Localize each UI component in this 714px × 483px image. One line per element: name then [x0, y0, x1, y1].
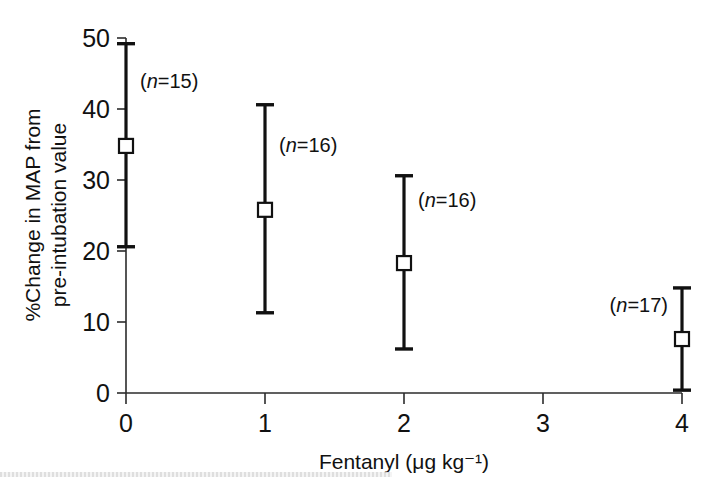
data-marker-3: [675, 332, 689, 346]
y-tick-label-0: 0: [96, 379, 110, 407]
x-axis-title: Fentanyl (μg kg⁻¹): [319, 450, 489, 473]
data-point-group-1: [256, 105, 274, 313]
y-axis-title-line1: %Change in MAP from: [21, 108, 44, 321]
chart-svg: 0 10 20 30 40 50 0 1 2 3 4 Fentanyl (μg …: [0, 0, 714, 483]
x-tick-label-4: 4: [675, 409, 689, 437]
sample-size-label-0: (n=15): [140, 70, 198, 92]
x-axis-title-text: Fentanyl (μg kg⁻¹): [319, 450, 489, 473]
x-axis-ticks: [126, 393, 682, 404]
data-marker-0: [119, 139, 133, 153]
data-point-group-2: [395, 176, 413, 349]
data-marker-2: [397, 256, 411, 270]
chart-figure: 0 10 20 30 40 50 0 1 2 3 4 Fentanyl (μg …: [0, 0, 714, 483]
sample-size-label-3: (n=17): [610, 294, 668, 316]
x-tick-label-0: 0: [119, 409, 133, 437]
data-point-group-3: [673, 288, 691, 390]
y-tick-label-10: 10: [82, 308, 110, 336]
data-point-group-0: [117, 44, 135, 247]
x-tick-label-1: 1: [258, 409, 272, 437]
y-tick-label-40: 40: [82, 95, 110, 123]
x-tick-label-3: 3: [536, 409, 550, 437]
sample-size-label-2: (n=16): [418, 189, 476, 211]
y-tick-label-20: 20: [82, 237, 110, 265]
scan-artifact: [0, 472, 392, 477]
sample-size-label-1: (n=16): [279, 134, 337, 156]
data-marker-1: [258, 203, 272, 217]
x-axis-tick-labels: 0 1 2 3 4: [119, 409, 689, 437]
y-axis-tick-labels: 0 10 20 30 40 50: [82, 24, 110, 407]
y-axis-title-line2: pre-intubation value: [47, 123, 70, 307]
y-tick-label-50: 50: [82, 24, 110, 52]
y-tick-label-30: 30: [82, 166, 110, 194]
x-tick-label-2: 2: [397, 409, 411, 437]
y-axis-title: %Change in MAP from pre-intubation value: [21, 108, 70, 321]
data-series-errorbars: [117, 44, 691, 390]
